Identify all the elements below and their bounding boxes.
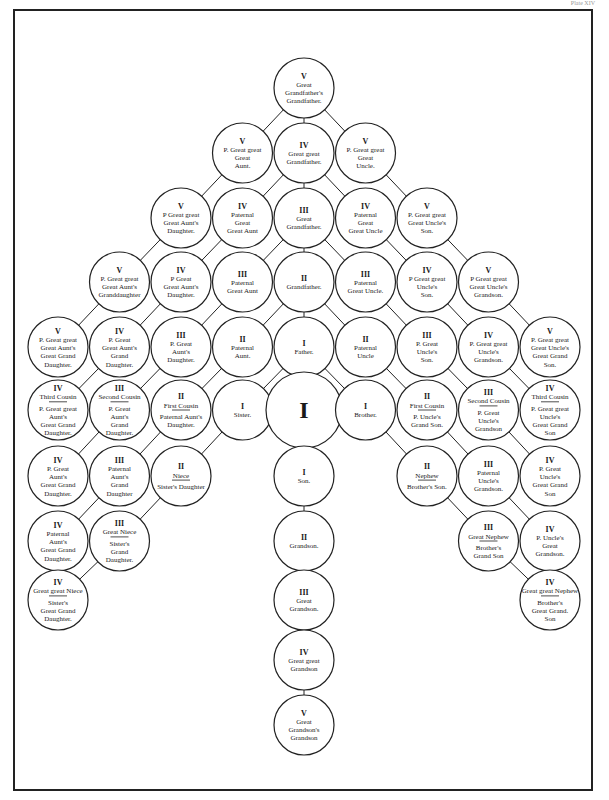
title-label: Third Cousin (531, 393, 569, 401)
line-label: Sister's (48, 599, 68, 607)
line-label: Daughter. (44, 429, 72, 437)
line-label: Aunt's (49, 538, 67, 546)
node-first_cousin_m: IIFirst CousinP. Uncle'sGrand Son. (397, 380, 457, 440)
node-pgg_aunt_dau: IVP GreatGreat Aunt'sDaughter. (151, 252, 211, 312)
node-second_cousin_m: IIISecond CousinP. GreatUncle'sGrandson (459, 380, 519, 440)
line-label: Paternal (477, 469, 500, 477)
line-label: P. Great great (39, 405, 77, 413)
node-pgg_uncle_ggson: VP. Great greatGreat Uncle'sGreat GrandS… (520, 317, 580, 377)
line-label: Brother. (354, 411, 377, 419)
line-label: P. Great great (408, 211, 446, 219)
node-pg_aunt_ggdau: IVP. GreatAunt'sGreat GrandDaughter. (28, 446, 88, 506)
degree-label: II (239, 335, 245, 344)
degree-label: V (240, 137, 246, 146)
degree-label: III (299, 588, 308, 597)
line-label: Grandfather. (286, 223, 321, 231)
line-label: Aunt. (235, 352, 251, 360)
node-great_niece: IIIGreat NieceSister'sGrandDaughter. (90, 511, 150, 571)
line-label: Daughter. (44, 555, 72, 563)
line-label: Aunt's (172, 348, 190, 356)
node-pat_aunt: IIPaternalAunt. (213, 317, 273, 377)
line-label: Great Uncle (348, 227, 382, 235)
title-label: Great Niece (103, 528, 137, 536)
node-pgg_uncle_son: IVP Great greatUncle'sSon. (397, 252, 457, 312)
line-label: Paternal (231, 344, 254, 352)
line-label: Daughter. (44, 615, 72, 623)
degree-label: II (424, 392, 430, 401)
line-label: Great Grand (533, 421, 568, 429)
node-pggg_aunt: VP. Great greatGreatAunt. (213, 123, 273, 183)
node-first_cousin_f: IIFirst CousinPaternal Aunt'sDaughter. (151, 380, 211, 440)
line-label: Grandson. (474, 356, 503, 364)
line-label: Great Aunt's (41, 344, 76, 352)
line-label: Grand (111, 421, 129, 429)
node-pat_uncle: IIPaternalUncle (336, 317, 396, 377)
line-label: Grand (111, 481, 129, 489)
line-label: P. Uncle's (536, 534, 564, 542)
node-pat_g_aunt: IIIPaternalGreat Aunt (213, 252, 273, 312)
line-label: Grand (111, 548, 129, 556)
line-label: Great Grand (533, 481, 568, 489)
node-pat_uncle_gson: IIIPaternalUncle'sGrandson. (459, 446, 519, 506)
degree-label: V (178, 202, 184, 211)
title-label: Niece (173, 472, 189, 480)
node-pat_gg_uncle: IVPaternalGreatGreat Uncle (336, 188, 396, 248)
line-label: Uncle's (540, 473, 561, 481)
line-label: Son (545, 429, 556, 437)
title-label: Great great Niece (33, 587, 82, 595)
node-ggg_grandson: VGreatGrandson'sGrandson (274, 695, 334, 755)
line-label: Father. (294, 348, 313, 356)
degree-label: I (299, 397, 308, 423)
line-label: P. Great great (531, 405, 569, 413)
line-label: Paternal (47, 530, 70, 538)
line-label: Son. (544, 361, 557, 369)
title-label: Nephew (415, 472, 439, 480)
degree-label: IV (546, 578, 555, 587)
line-label: Great Aunt's (164, 283, 199, 291)
node-brother: IBrother. (336, 380, 396, 440)
node-sister: ISister. (213, 380, 273, 440)
line-label: P. Great great (101, 275, 139, 283)
line-label: P. Great great (39, 336, 77, 344)
node-son: ISon. (274, 446, 334, 506)
line-label: Daughter. (44, 490, 72, 498)
degree-label: III (115, 456, 124, 465)
line-label: Great Aunt's (102, 344, 137, 352)
line-label: Great Grand (41, 352, 76, 360)
degree-label: V (547, 327, 553, 336)
title-label: Great great Nephew (522, 587, 579, 595)
degree-label: III (115, 519, 124, 528)
line-label: Great Aunt (227, 227, 258, 235)
node-gg_gf: IVGreat greatGrandfather. (274, 123, 334, 183)
degree-label: III (484, 460, 493, 469)
line-label: Aunt's (111, 413, 129, 421)
line-label: P. Great (170, 340, 192, 348)
line-label: Great (296, 718, 312, 726)
line-label: P Great great (163, 211, 200, 219)
degree-label: III (361, 270, 370, 279)
degree-label: II (362, 335, 368, 344)
line-label: Great Grand (41, 546, 76, 554)
degree-label: I (302, 339, 305, 348)
line-label: Brother's (476, 544, 502, 552)
line-label: Grandfather. (286, 97, 321, 105)
degree-label: IV (546, 384, 555, 393)
degree-label: V (363, 137, 369, 146)
line-label: Grandfather. (286, 283, 321, 291)
line-label: Paternal Aunt's (160, 413, 203, 421)
line-label: P. Great great (531, 336, 569, 344)
line-label: P. Great (477, 409, 499, 417)
line-label: Daughter. (44, 361, 72, 369)
node-pg_uncle_son: IIIP. GreatUncle'sSon. (397, 317, 457, 377)
nodes-layer: VGreatGrandfather'sGrandfather.VP. Great… (28, 58, 580, 755)
line-label: P Great great (470, 275, 507, 283)
line-label: Great (358, 154, 374, 162)
line-label: Great Grand (41, 421, 76, 429)
degree-label: IV (361, 202, 370, 211)
line-label: Uncle's (478, 417, 499, 425)
degree-label: I (241, 402, 244, 411)
node-pggg_uncle: VP. Great greatGreatUncle. (336, 123, 396, 183)
line-label: Great Grand (41, 481, 76, 489)
line-label: Uncle. (356, 162, 375, 170)
line-label: P. Great (108, 336, 130, 344)
